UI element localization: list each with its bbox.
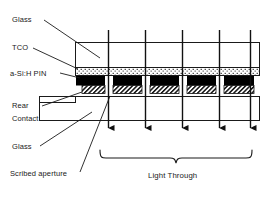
rear-contact-segment xyxy=(82,86,105,94)
asi-segment xyxy=(187,76,216,86)
label-glass-bottom: Glass xyxy=(12,142,32,151)
glass-top-layer xyxy=(76,43,260,68)
layer-stack xyxy=(40,43,260,121)
asi-segment xyxy=(224,76,254,86)
label-asi-h-pin: a-Si:H PIN xyxy=(10,69,46,78)
figure-canvas: Glass TCO a-Si:H PIN Rear Contact Glass … xyxy=(0,0,260,199)
cell-segments xyxy=(76,76,254,94)
rear-contact-bus xyxy=(40,97,76,103)
label-scribed-aperture: Scribed aperture xyxy=(10,169,67,178)
light-through-brace xyxy=(100,150,252,163)
leader-tco xyxy=(33,48,78,69)
rear-contact-segment xyxy=(150,86,179,94)
label-tco: TCO xyxy=(12,43,28,52)
label-glass-top: Glass xyxy=(12,15,32,24)
rear-contact-segment xyxy=(224,86,254,94)
rear-contact-segment xyxy=(113,86,142,94)
asi-segment xyxy=(76,76,105,86)
asi-segment xyxy=(150,76,179,86)
asi-segment xyxy=(113,76,142,86)
label-rear: Rear xyxy=(12,101,29,110)
leader-glass-top xyxy=(44,20,100,58)
label-light-through: Light Through xyxy=(148,171,197,180)
rear-contact-segment xyxy=(187,86,216,94)
label-contact: Contact xyxy=(12,114,39,123)
tco-layer xyxy=(76,68,260,76)
